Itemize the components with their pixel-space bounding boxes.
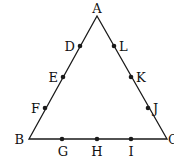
point-label-j: J xyxy=(151,101,158,116)
triangle-diagram: ABC DEFGHIJKL xyxy=(0,0,174,158)
point-dot-h xyxy=(95,137,100,142)
vertex-label-c: C xyxy=(168,132,174,147)
point-label-f: F xyxy=(31,101,40,116)
vertex-label-a: A xyxy=(91,1,102,16)
point-dot-l xyxy=(112,44,117,49)
vertex-label-b: B xyxy=(14,132,24,147)
point-label-e: E xyxy=(49,70,59,85)
point-dot-d xyxy=(78,44,83,49)
point-markers xyxy=(43,44,151,142)
vertex-labels: ABC xyxy=(14,1,174,147)
point-label-i: I xyxy=(128,144,133,158)
point-label-d: D xyxy=(65,39,75,54)
point-label-l: L xyxy=(119,39,128,54)
point-dot-i xyxy=(129,137,134,142)
point-label-g: G xyxy=(58,144,68,158)
point-dot-e xyxy=(61,75,66,80)
point-dot-k xyxy=(129,75,134,80)
point-dot-f xyxy=(43,106,48,111)
point-labels: DEFGHIJKL xyxy=(31,39,158,158)
point-dot-g xyxy=(60,137,65,142)
point-label-h: H xyxy=(91,144,102,158)
point-label-k: K xyxy=(136,70,146,85)
point-dot-j xyxy=(146,106,151,111)
